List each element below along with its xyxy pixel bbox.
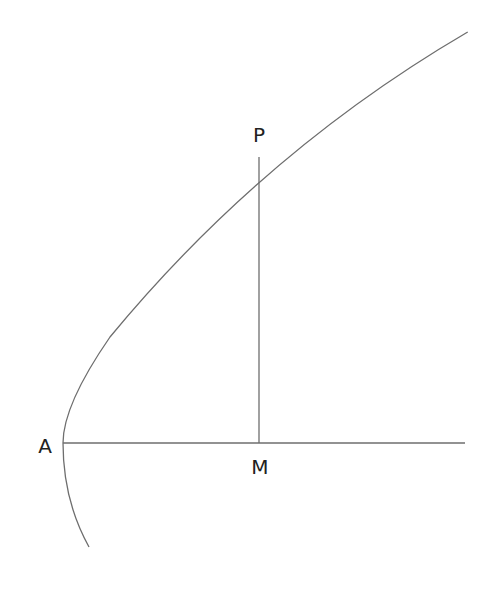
label-point-p: P: [253, 125, 265, 145]
label-vertex-a: A: [38, 436, 52, 456]
diagram-svg: [0, 0, 490, 599]
label-foot-m: M: [251, 457, 268, 477]
diagram-canvas: A P M: [0, 0, 490, 599]
